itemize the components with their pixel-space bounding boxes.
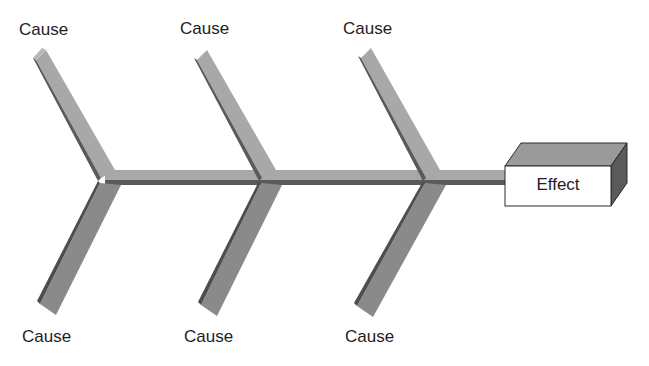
bone-top-2: [194, 50, 276, 181]
cause-label-top-1: Cause: [19, 20, 68, 40]
cause-label-bottom-3: Cause: [345, 327, 394, 347]
cause-label-bottom-1: Cause: [22, 327, 71, 347]
cause-label-bottom-2: Cause: [184, 327, 233, 347]
bone-bottom-3: [354, 181, 446, 317]
bone-bottom-2: [198, 181, 282, 316]
bone-top-3: [358, 48, 440, 181]
cause-label-top-2: Cause: [180, 19, 229, 39]
bone-top-1: [33, 48, 115, 181]
spine: [105, 170, 505, 185]
cause-label-top-3: Cause: [343, 19, 392, 39]
bone-bottom-1: [37, 181, 121, 315]
effect-label: Effect: [505, 175, 611, 195]
